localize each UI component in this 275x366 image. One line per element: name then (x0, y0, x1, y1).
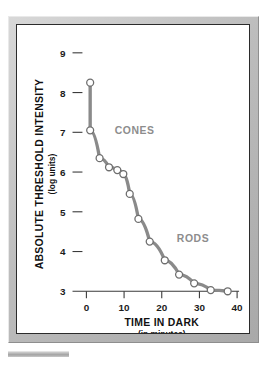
y-axis-ticks (73, 53, 83, 252)
x-tick-label-40: 40 (232, 302, 243, 313)
x-tick-label-0: 0 (84, 302, 90, 313)
data-point (135, 215, 142, 222)
data-point (207, 287, 214, 294)
data-point (191, 280, 198, 287)
x-tick-label-10: 10 (119, 302, 130, 313)
x-tick-label-30: 30 (194, 302, 205, 313)
y-axis-tick-labels: 9 8 7 6 5 4 3 (60, 48, 66, 297)
dark-adaptation-chart: 9 8 7 6 5 4 3 0 10 20 30 (17, 25, 249, 333)
y-tick-label-9: 9 (60, 48, 66, 59)
y-tick-label-4: 4 (60, 246, 66, 257)
data-point (87, 127, 94, 134)
y-tick-label-7: 7 (60, 127, 66, 138)
data-point (120, 171, 127, 178)
x-axis-ticks (86, 291, 237, 298)
data-series-markers (87, 79, 231, 295)
y-axis-subtitle: (log units) (47, 153, 57, 194)
x-axis-subtitle: (in minutes) (138, 329, 186, 333)
y-tick-label-3: 3 (60, 286, 66, 297)
x-axis-title: TIME IN DARK (124, 317, 199, 328)
data-point (126, 190, 133, 197)
annotation-cones: CONES (115, 125, 155, 136)
figure-frame: 9 8 7 6 5 4 3 0 10 20 30 (8, 16, 259, 343)
x-axis-tick-labels: 0 10 20 30 40 (84, 302, 243, 313)
plot-panel: 9 8 7 6 5 4 3 0 10 20 30 (16, 24, 250, 334)
data-point (176, 271, 183, 278)
y-tick-label-6: 6 (60, 167, 66, 178)
caption-rule (8, 351, 69, 357)
data-series-line (90, 83, 228, 292)
x-tick-label-20: 20 (156, 302, 167, 313)
y-tick-label-8: 8 (60, 88, 66, 99)
y-tick-label-5: 5 (60, 207, 66, 218)
y-axis-title: ABSOLUTE THRESHOLD INTENSITY (34, 79, 45, 270)
data-point (146, 238, 153, 245)
data-point (87, 79, 94, 86)
annotation-rods: RODS (177, 233, 209, 244)
data-point (106, 164, 113, 171)
data-point (96, 155, 103, 162)
data-point (161, 257, 168, 264)
data-point (224, 288, 231, 295)
